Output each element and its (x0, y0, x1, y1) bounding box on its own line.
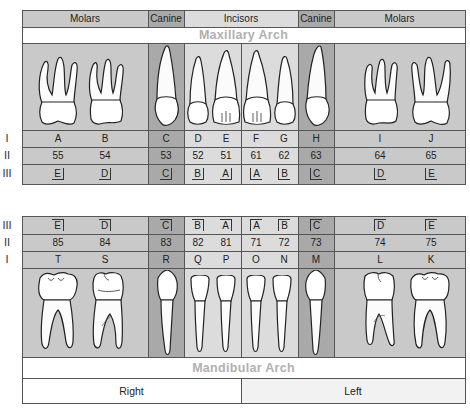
palmer-lower-left-d: D (374, 219, 386, 231)
tooth-number-73: 73 (301, 234, 331, 251)
divider (334, 10, 335, 27)
tooth-letter-j: J (416, 130, 446, 147)
divider (148, 216, 149, 357)
tooth-letter-b: B (90, 130, 120, 147)
tooth-letter-i: I (365, 130, 395, 147)
palmer-upper-right-e: E (52, 168, 64, 180)
lower-incisor-o-icon (245, 275, 267, 357)
tooth-letter-s: S (90, 251, 120, 268)
palmer-upper-left-b: B (278, 168, 290, 180)
row-label-upper-iii: III (0, 167, 14, 179)
tooth-number-84: 84 (90, 234, 120, 251)
tooth-letter-t: T (43, 251, 73, 268)
palmer-lower-right-c: C (160, 219, 172, 231)
upper-molar-j-icon (409, 55, 453, 128)
tooth-number-75: 75 (416, 234, 446, 251)
upper-incisor-g-icon (273, 55, 297, 128)
lower-canine-r-icon (155, 270, 179, 357)
tooth-letter-d: D (185, 130, 211, 147)
upper-molar-b-icon (86, 55, 126, 128)
divider (22, 378, 465, 379)
lower-molar-k-icon (408, 270, 452, 355)
tooth-number-71: 71 (243, 234, 269, 251)
tooth-letter-f: F (243, 130, 269, 147)
palmer-upper-left-e: E (425, 168, 437, 180)
upper-molar-a-icon (36, 55, 80, 128)
palmer-lower-right-b: B (192, 219, 204, 231)
tooth-letter-h: H (301, 130, 331, 147)
tooth-number-81: 81 (213, 234, 239, 251)
divider (148, 43, 149, 184)
tooth-letter-p: P (213, 251, 239, 268)
palmer-upper-right-d: D (99, 168, 111, 180)
tooth-letter-m: M (301, 251, 331, 268)
tooth-number-82: 82 (185, 234, 211, 251)
tooth-number-62: 62 (271, 147, 297, 164)
tooth-letter-e: E (213, 130, 239, 147)
divider (298, 216, 299, 357)
palmer-upper-right-a: A (220, 168, 232, 180)
palmer-lower-left-a: A (250, 219, 262, 231)
palmer-upper-right-b: B (192, 168, 204, 180)
upper-molar-i-icon (361, 55, 401, 128)
row-label-upper-i: I (0, 132, 14, 144)
tooth-letter-n: N (271, 251, 297, 268)
divider (184, 10, 185, 27)
palmer-upper-left-a: A (250, 168, 262, 180)
upper-canine-h-icon (302, 44, 332, 128)
divider (22, 27, 465, 28)
upper-canine-c-icon (151, 44, 181, 128)
lower-canine-m-icon (304, 270, 328, 357)
row-label-lower-ii: II (0, 236, 14, 248)
palmer-lower-right-d: D (99, 219, 111, 231)
palmer-lower-left-c: C (310, 219, 322, 231)
tooth-number-64: 64 (365, 147, 395, 164)
upper-incisor-d-icon (186, 55, 210, 128)
tooth-letter-r: R (151, 251, 181, 268)
divider (298, 43, 299, 184)
divider (241, 216, 242, 357)
divider (298, 10, 299, 27)
lower-molar-s-icon (90, 270, 126, 355)
lower-molar-l-icon (361, 270, 397, 355)
tooth-letter-a: A (43, 130, 73, 147)
palmer-upper-left-d: D (374, 168, 386, 180)
tooth-number-54: 54 (90, 147, 120, 164)
row-label-lower-i: I (0, 253, 14, 265)
divider (22, 357, 465, 358)
row-label-upper-ii: II (0, 149, 14, 161)
divider (148, 10, 149, 27)
divider (22, 43, 465, 44)
lower-incisor-n-icon (271, 275, 293, 357)
palmer-lower-right-a: A (220, 219, 232, 231)
tooth-letter-c: C (151, 130, 181, 147)
tooth-number-63: 63 (301, 147, 331, 164)
tooth-number-61: 61 (243, 147, 269, 164)
tooth-letter-g: G (271, 130, 297, 147)
tooth-number-51: 51 (213, 147, 239, 164)
tooth-letter-k: K (416, 251, 446, 268)
divider (334, 216, 335, 357)
tooth-number-55: 55 (43, 147, 73, 164)
tooth-number-85: 85 (43, 234, 73, 251)
tooth-letter-q: Q (185, 251, 211, 268)
tooth-number-53: 53 (151, 147, 181, 164)
tooth-number-65: 65 (416, 147, 446, 164)
palmer-lower-left-b: B (278, 219, 290, 231)
tooth-number-52: 52 (185, 147, 211, 164)
row-label-lower-iii: III (0, 219, 14, 231)
palmer-upper-left-c: C (310, 168, 322, 180)
divider (334, 43, 335, 184)
tooth-number-83: 83 (151, 234, 181, 251)
tooth-number-72: 72 (271, 234, 297, 251)
divider (22, 268, 465, 269)
palmer-lower-left-e: E (425, 219, 437, 231)
divider (241, 378, 242, 403)
tooth-number-74: 74 (365, 234, 395, 251)
upper-incisor-e-icon (211, 49, 241, 128)
lower-incisor-p-icon (215, 275, 237, 357)
upper-incisor-f-icon (242, 49, 272, 128)
lower-incisor-q-icon (189, 275, 211, 357)
palmer-upper-right-c: C (160, 168, 172, 180)
tooth-letter-l: L (365, 251, 395, 268)
